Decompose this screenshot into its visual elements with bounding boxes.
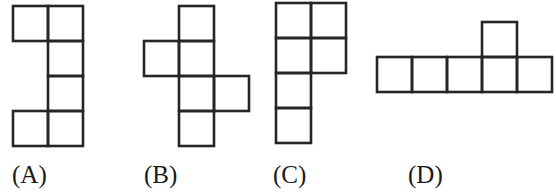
option-label-a: (A) — [12, 160, 47, 190]
net-square — [179, 76, 214, 111]
net-square — [377, 57, 412, 92]
net-square — [48, 76, 83, 111]
net-square — [179, 6, 214, 41]
net-square — [48, 41, 83, 76]
net-square — [482, 22, 517, 57]
net-option-a — [13, 6, 83, 146]
net-square — [311, 38, 346, 73]
option-label-b: (B) — [144, 160, 177, 190]
net-square — [179, 111, 214, 146]
net-square — [311, 3, 346, 38]
net-square — [48, 111, 83, 146]
net-square — [48, 6, 83, 41]
net-square — [412, 57, 447, 92]
net-square — [276, 108, 311, 143]
net-square — [144, 41, 179, 76]
net-option-b — [144, 6, 249, 146]
net-option-d — [377, 22, 552, 92]
net-square — [276, 38, 311, 73]
cube-nets-figure: (A) (B) (C) (D) — [0, 0, 556, 194]
option-label-c: (C) — [273, 160, 306, 190]
net-square — [214, 76, 249, 111]
option-label-d: (D) — [408, 160, 443, 190]
net-square — [447, 57, 482, 92]
net-square — [13, 111, 48, 146]
net-square — [276, 3, 311, 38]
net-square — [517, 57, 552, 92]
net-square — [13, 6, 48, 41]
net-square — [179, 41, 214, 76]
net-square — [276, 73, 311, 108]
net-square — [482, 57, 517, 92]
net-option-c — [276, 3, 346, 143]
